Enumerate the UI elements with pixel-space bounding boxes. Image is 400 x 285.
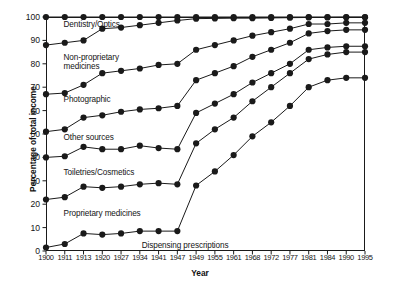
y-tick-10: 10: [14, 223, 40, 233]
y-tick-40: 40: [14, 152, 40, 162]
y-tick-50: 50: [14, 129, 40, 139]
series-label-6: Dispensing prescriptions: [142, 241, 229, 250]
series-label-3: Other sources: [64, 133, 114, 142]
y-tick-70: 70: [14, 82, 40, 92]
y-tick-90: 90: [14, 35, 40, 45]
y-tick-100: 100: [14, 12, 40, 22]
chart-figure: Percentage of total income 0102030405060…: [0, 0, 400, 285]
y-tick-60: 60: [14, 106, 40, 116]
y-tick-30: 30: [14, 176, 40, 186]
y-tick-20: 20: [14, 199, 40, 209]
y-tick-80: 80: [14, 59, 40, 69]
x-axis-title: Year: [0, 268, 400, 278]
series-label-4: Toiletries/Cosmetics: [64, 168, 135, 177]
x-tick-1995: 1995: [345, 253, 385, 262]
series-label-1: Non-proprietary medicines: [64, 53, 119, 71]
series-label-5: Proprietary medicines: [64, 209, 141, 218]
series-label-0: Dentistry/Optics: [64, 20, 120, 29]
series-label-2: Photographic: [64, 95, 111, 104]
